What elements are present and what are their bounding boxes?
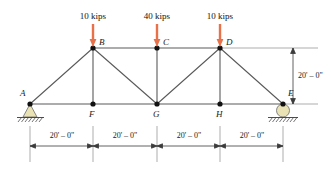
joint-label-D: D (226, 38, 233, 47)
truss-members (30, 48, 283, 104)
joint-label-H: H (216, 110, 223, 119)
joint-node-F (90, 101, 95, 106)
joint-label-F: F (89, 110, 95, 119)
dimension-label-F-G: 20' – 0" (101, 132, 149, 140)
member-D-E (220, 48, 283, 104)
dim-arrowhead-G-right (157, 144, 163, 148)
dimension-label-A-F: 20' – 0" (38, 132, 86, 140)
joint-label-E: E (288, 89, 294, 98)
load-label-B: 10 kips (70, 12, 116, 21)
truss-diagram-figure: 10 kips 40 kips 10 kips A B C D E F G H … (0, 0, 331, 175)
load-arrow-D (217, 24, 224, 47)
joint-node-A (27, 101, 32, 106)
vertical-dim-arrowhead-top (291, 48, 296, 54)
truss-drawing-canvas (0, 0, 331, 175)
load-arrow-C-head (154, 39, 161, 47)
member-B-G (93, 48, 157, 104)
load-label-C: 40 kips (134, 12, 180, 21)
dimension-label-height: 20' – 0" (298, 72, 330, 80)
joint-node-E (280, 101, 285, 106)
load-arrow-B-head (90, 39, 97, 47)
horizontal-dimension-lines (30, 144, 283, 148)
dim-arrowhead-H-right (220, 144, 226, 148)
load-arrows (90, 24, 224, 47)
load-arrow-C (154, 24, 161, 47)
pinned-support (17, 104, 44, 122)
member-G-D (157, 48, 220, 104)
dimension-label-G-H: 20' – 0" (165, 132, 213, 140)
roller-support (268, 104, 298, 122)
joint-label-G: G (153, 110, 160, 119)
load-label-D: 10 kips (197, 12, 243, 21)
dim-arrowhead-A-right (30, 144, 36, 148)
roller-support-hatching (269, 118, 297, 123)
dimension-label-H-E: 20' – 0" (228, 132, 276, 140)
load-arrow-D-head (217, 39, 224, 47)
pin-support-hatching (18, 118, 43, 123)
vertical-dim-arrowhead-bottom (291, 99, 296, 105)
dim-arrowhead-E-left (278, 144, 284, 148)
joint-node-H (217, 101, 222, 106)
joint-node-G (154, 101, 159, 106)
member-A-B (30, 48, 93, 104)
joint-label-A: A (20, 89, 26, 98)
joint-label-C: C (163, 38, 169, 47)
load-arrow-B (90, 24, 97, 47)
dim-arrowhead-F-right (93, 144, 99, 148)
joint-label-B: B (99, 38, 105, 47)
